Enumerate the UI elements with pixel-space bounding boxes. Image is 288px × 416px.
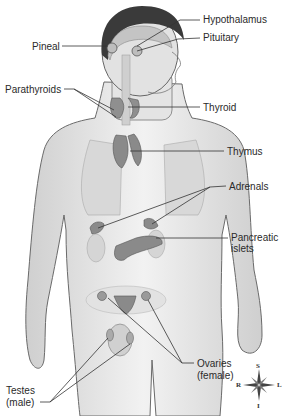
label-parathyroids: Parathyroids	[5, 84, 61, 95]
label-thymus: Thymus	[227, 146, 263, 157]
label-pineal: Pineal	[32, 41, 60, 52]
endocrine-diagram: Hypothalamus Pituitary Pineal Parathyroi…	[0, 0, 288, 416]
label-ovaries-line1: Ovaries	[197, 358, 231, 369]
compass-left: L	[277, 381, 282, 389]
compass-rose-icon	[243, 369, 275, 401]
compass-right: R	[236, 381, 241, 389]
label-ovaries-line2: (female)	[197, 370, 234, 381]
label-testes-line1: Testes	[6, 385, 35, 396]
compass-inferior: I	[257, 402, 260, 410]
body-illustration	[0, 0, 288, 416]
label-adrenals: Adrenals	[229, 181, 268, 192]
label-pancreatic-line2: islets	[231, 243, 254, 254]
label-thyroid: Thyroid	[203, 102, 236, 113]
label-hypothalamus: Hypothalamus	[203, 14, 267, 25]
compass-superior: S	[256, 362, 260, 370]
label-pituitary: Pituitary	[203, 32, 239, 43]
label-testes-line2: (male)	[6, 397, 34, 408]
label-pancreatic-line1: Pancreatic	[231, 232, 278, 243]
